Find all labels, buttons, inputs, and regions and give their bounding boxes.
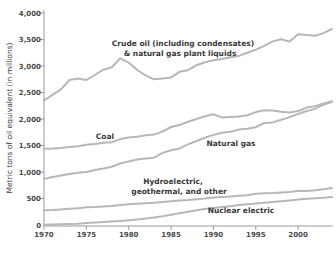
x-tick-label: 2000 [288, 231, 308, 239]
y-tick-label: 3,000 [19, 63, 41, 71]
x-tick-label: 1980 [119, 231, 139, 239]
x-tick-label: 1990 [204, 231, 224, 239]
y-tick-label: 2,500 [19, 89, 41, 97]
y-tick-label: 4,000 [19, 10, 41, 18]
y-tick-label: 500 [26, 195, 41, 203]
y-axis: 4,000 3,500 3,000 2,500 2,000 1,500 1,00… [19, 10, 44, 230]
x-tick-label: 1985 [161, 231, 181, 239]
series-label-hydro-line1: Hydroelectric, [143, 177, 203, 186]
line-chart-svg: 4,000 3,500 3,000 2,500 2,000 1,500 1,00… [0, 0, 336, 259]
series-label-crude-oil-line1: Crude oil (including condensates) [112, 39, 254, 48]
x-axis: 1970 1975 1980 1985 1990 1995 2000 [34, 226, 333, 239]
y-tick-label: 3,500 [19, 36, 41, 44]
x-tick-label: 1970 [34, 231, 54, 239]
energy-production-line-chart: 4,000 3,500 3,000 2,500 2,000 1,500 1,00… [0, 0, 336, 259]
series-label-coal: Coal [96, 132, 114, 141]
x-tick-label: 1995 [246, 231, 266, 239]
y-axis-title: Metric tons of oil equivalent (in millio… [5, 42, 14, 193]
y-tick-label: 0 [36, 222, 41, 230]
y-tick-label: 2,000 [19, 116, 41, 124]
series-label-hydro-line2: geothermal, and other [131, 187, 227, 196]
y-tick-label: 1,000 [19, 169, 41, 177]
x-tick-label: 1975 [77, 231, 97, 239]
series-line-coal [44, 101, 332, 149]
series-label-nuclear-electric: Nuclear electric [208, 206, 275, 215]
y-tick-label: 1,500 [19, 142, 41, 150]
series-label-crude-oil-line2: & natural gas plant liquids [124, 49, 237, 58]
series-label-natural-gas: Natural gas [206, 139, 256, 148]
